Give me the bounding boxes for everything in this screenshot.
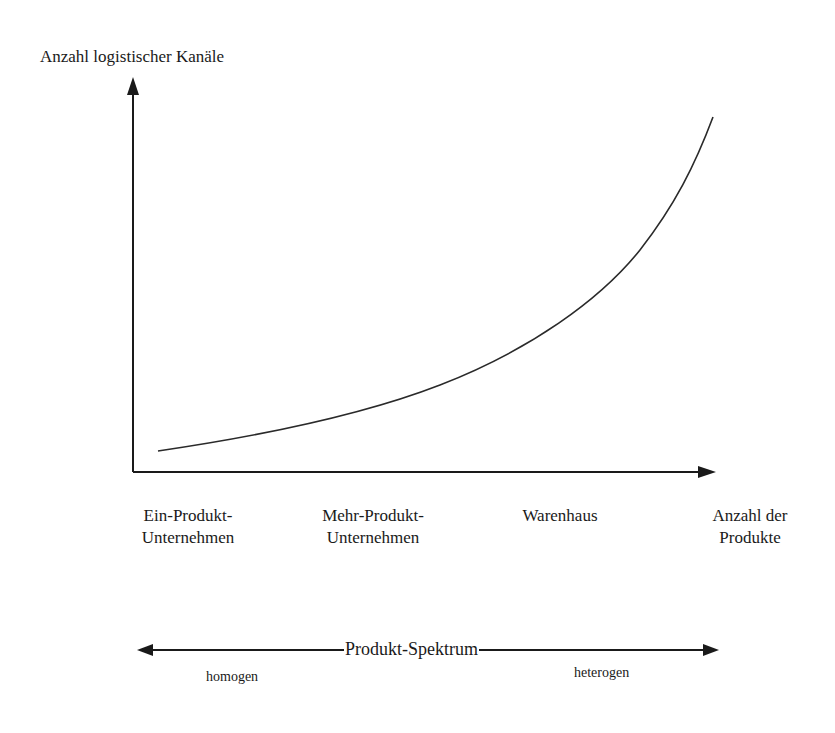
y-axis-arrow-icon	[127, 77, 139, 95]
spectrum-left-arrow-icon	[137, 644, 153, 656]
x-axis-arrow-icon	[698, 466, 716, 478]
spectrum-right-label: heterogen	[574, 662, 629, 684]
x-category-line2: Unternehmen	[118, 527, 258, 549]
diagram-canvas	[0, 0, 835, 733]
x-category-warenhaus: Warenhaus	[500, 505, 620, 527]
growth-curve	[158, 117, 713, 451]
x-category-mehr-produkt: Mehr-Produkt- Unternehmen	[298, 505, 448, 549]
x-category-line1: Ein-Produkt-	[118, 505, 258, 527]
x-category-line1: Mehr-Produkt-	[298, 505, 448, 527]
x-axis-label: Anzahl der Produkte	[680, 505, 820, 549]
x-axis-label-line1: Anzahl der	[680, 505, 820, 527]
spectrum-left-label: homogen	[206, 666, 258, 688]
y-axis-label: Anzahl logistischer Kanäle	[40, 46, 224, 68]
x-category-line1: Warenhaus	[500, 505, 620, 527]
x-category-line2: Unternehmen	[298, 527, 448, 549]
x-category-ein-produkt: Ein-Produkt- Unternehmen	[118, 505, 258, 549]
x-axis	[133, 466, 716, 478]
spectrum-label: Produkt-Spektrum	[344, 638, 479, 660]
x-axis-label-line2: Produkte	[680, 527, 820, 549]
y-axis	[127, 77, 139, 472]
spectrum-right-arrow-icon	[703, 644, 719, 656]
